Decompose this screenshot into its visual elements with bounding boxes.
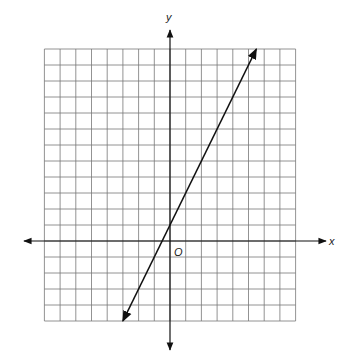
coordinate-plane: x y O bbox=[0, 0, 344, 359]
x-axis-label: x bbox=[328, 235, 335, 247]
y-axis-label: y bbox=[165, 11, 173, 23]
axes bbox=[24, 30, 326, 350]
origin-label: O bbox=[174, 246, 183, 258]
graphed-line bbox=[123, 49, 256, 321]
